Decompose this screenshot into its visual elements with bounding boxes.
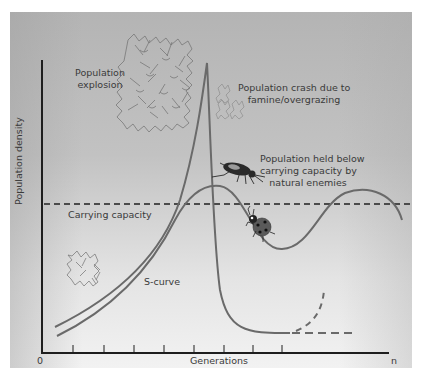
recovery-dashed-curve (296, 290, 324, 331)
ground-beetle-icon (212, 160, 265, 184)
x-axis-end-label: n (391, 355, 397, 367)
insect-swarm-left-icon (67, 251, 100, 286)
label-population-explosion: Population explosion (72, 67, 128, 91)
label-carrying-capacity: Carrying capacity (68, 209, 152, 221)
population-dynamics-diagram (0, 0, 432, 378)
x-axis-origin-label: 0 (37, 355, 43, 367)
label-s-curve: S-curve (144, 276, 180, 288)
y-axis-label: Population density (13, 117, 24, 205)
label-held-below-capacity: Population held below carrying capacity … (260, 153, 356, 189)
x-axis-ticks (73, 345, 282, 353)
label-population-crash: Population crash due to famine/overgrazi… (238, 82, 350, 106)
x-axis-label: Generations (190, 355, 248, 367)
